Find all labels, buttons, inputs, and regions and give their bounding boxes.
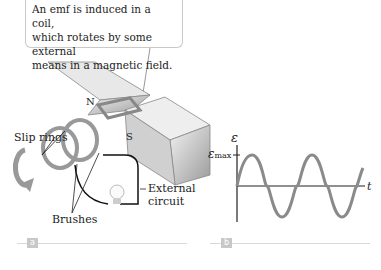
panel-b-tag: b [221,238,232,248]
brushes-label: Brushes [52,213,97,226]
south-label: S [126,131,133,142]
panel-b-rule [210,243,370,244]
y-axis-label: ε [231,130,238,145]
panel-a-tag: a [27,238,38,248]
explanation-callout: An emf is induced in a coil, which rotat… [25,0,183,48]
north-label: N [86,96,95,107]
callout-line: An emf is induced in a coil, [32,2,176,30]
panel-a-rule [17,243,187,244]
x-axis-label: t [367,180,371,193]
slip-rings-label: Slip rings [14,131,68,144]
callout-line: means in a magnetic field. [32,58,176,72]
callout-line: which rotates by some external [32,30,176,58]
emax-label: εmax [208,147,231,161]
external-label: External [148,182,196,195]
circuit-label: circuit [148,195,184,208]
